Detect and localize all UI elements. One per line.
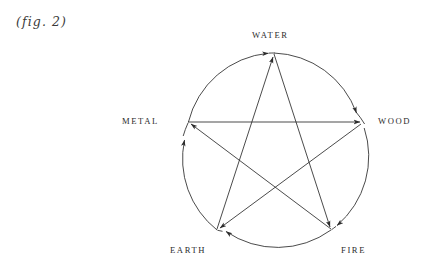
node-label-fire: FIRE <box>341 245 366 255</box>
five-element-cycle-diagram <box>0 0 434 267</box>
edge-wood-to-earth <box>220 124 361 228</box>
arc-earth-closure <box>217 230 222 231</box>
pentagram-group <box>188 54 361 229</box>
arc-earth-to-metal <box>183 140 217 230</box>
edge-fire-to-metal <box>191 124 331 229</box>
arc-water-to-wood <box>274 53 357 113</box>
node-label-earth: EARTH <box>170 245 206 255</box>
arc-metal-closure <box>183 123 188 136</box>
arc-wood-to-fire <box>337 128 369 226</box>
node-label-metal: METAL <box>122 116 159 126</box>
edge-earth-to-water <box>217 57 273 229</box>
node-label-water: WATER <box>252 30 289 40</box>
figure-container: (fig. 2) WATER WOOD FIRE <box>0 0 434 267</box>
arc-metal-to-water <box>188 53 268 122</box>
node-label-wood: WOOD <box>378 116 411 126</box>
arc-fire-closure <box>331 226 336 229</box>
arc-fire-to-earth <box>226 230 331 247</box>
edge-water-to-fire <box>274 54 330 227</box>
outer-circle-group <box>183 53 369 247</box>
